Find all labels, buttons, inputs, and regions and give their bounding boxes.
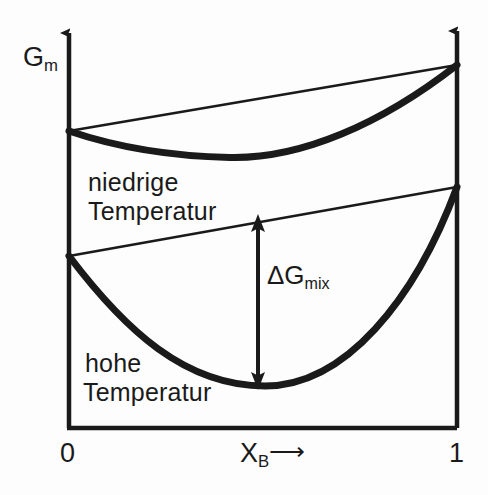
x-axis-direction-arrow-icon: ⟶ xyxy=(269,437,305,465)
x-axis-label-main: X xyxy=(240,438,258,468)
low-temperature-reference-line xyxy=(69,65,457,131)
low-temperature-curves xyxy=(69,65,457,158)
x-axis-label: XB⟶ xyxy=(240,440,305,467)
delta-g-mix-label-main: ΔG xyxy=(267,260,305,290)
low-temperature-label-line2: Temperatur xyxy=(88,199,216,224)
gibbs-energy-diagram: Gm XB⟶ 0 1 ΔGmix niedrige Temperatur hoh… xyxy=(0,0,488,495)
high-temperature-label-line1: hohe xyxy=(85,351,141,376)
y-axis-label-main: G xyxy=(23,42,44,72)
x-tick-label-one: 1 xyxy=(449,440,464,467)
y-axis-label: Gm xyxy=(23,44,58,71)
low-temperature-gibbs-curve xyxy=(69,65,457,158)
delta-g-mix-label-subscript: mix xyxy=(305,274,330,292)
high-temperature-label-line2: Temperatur xyxy=(83,380,211,405)
low-temperature-label-line1: niedrige xyxy=(88,170,179,195)
x-axis-label-subscript: B xyxy=(258,452,269,471)
y-axis-label-subscript: m xyxy=(44,56,58,75)
plot-canvas xyxy=(0,0,488,495)
delta-g-mix-label: ΔGmix xyxy=(267,262,330,288)
x-tick-label-zero: 0 xyxy=(60,440,75,467)
delta-g-mix-arrow xyxy=(251,214,265,390)
